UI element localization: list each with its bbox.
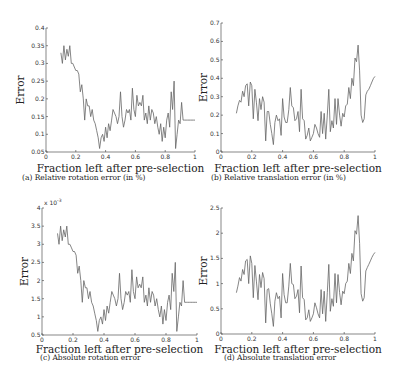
chart-c: 00.20.40.60.810.511.522.533.54x 10-3Frac…	[0, 193, 199, 387]
y-axis-label: Error	[197, 255, 209, 285]
y-tick-label: 0.1	[210, 130, 220, 137]
y-tick-label: 1.5	[210, 254, 220, 261]
x-tick-label: 0.2	[247, 153, 257, 160]
chart-a: 00.20.40.60.810.050.10.150.20.250.30.350…	[0, 0, 199, 193]
y-tick-label: 0.2	[210, 111, 220, 118]
y-tick-label: 4	[37, 204, 41, 211]
y-multiplier: x 10-3	[44, 198, 62, 206]
error-series-line	[58, 226, 198, 331]
x-tick-label: 0.6	[130, 336, 140, 343]
y-tick-label: 0.3	[210, 93, 220, 100]
error-series-line	[236, 216, 375, 327]
y-tick-label: 1	[37, 313, 41, 320]
x-tick-label: 0.2	[68, 336, 78, 343]
x-tick-label: 0	[40, 336, 44, 343]
panel-caption: (d) Absolute translation error	[224, 353, 337, 362]
x-tick-label: 0.8	[161, 336, 171, 343]
y-axis-label: Error	[18, 256, 30, 286]
y-tick-label: 3	[37, 240, 41, 247]
y-tick-label: 2.5	[210, 204, 220, 211]
error-series-line	[61, 46, 195, 149]
x-tick-label: 0	[44, 153, 48, 160]
x-tick-label: 0	[219, 153, 223, 160]
y-tick-label: 0.6	[210, 37, 220, 44]
chart-b: 00.20.40.60.8100.10.20.30.40.50.60.7Frac…	[199, 0, 398, 193]
y-tick-label: 0.4	[35, 24, 45, 31]
y-tick-label: 0.5	[210, 56, 220, 63]
y-tick-label: 0.35	[31, 42, 45, 49]
x-tick-label: 0.4	[278, 335, 288, 342]
x-tick-label: 0.8	[339, 153, 349, 160]
error-series-line	[236, 45, 375, 145]
x-tick-label: 0.4	[99, 336, 109, 343]
x-tick-label: 1	[373, 335, 377, 342]
y-tick-label: 0.5	[31, 331, 41, 338]
chart-d: 00.20.40.60.8100.511.522.5Fraction left …	[199, 193, 398, 387]
x-tick-label: 0.6	[309, 153, 319, 160]
y-tick-label: 0	[216, 330, 220, 337]
x-tick-label: 0.4	[101, 153, 111, 160]
y-tick-label: 0.5	[210, 305, 220, 312]
x-tick-label: 1	[373, 153, 377, 160]
chart-a-svg: 00.20.40.60.810.050.10.150.20.250.30.350…	[0, 0, 199, 193]
panel-caption: (b) Relative translation error (in %)	[211, 173, 346, 182]
y-tick-label: 3.5	[31, 222, 41, 229]
y-axis-label: Error	[197, 72, 209, 102]
y-tick-label: 0	[216, 148, 220, 155]
x-tick-label: 0.2	[71, 153, 81, 160]
y-tick-label: 2	[37, 277, 41, 284]
chart-d-svg: 00.20.40.60.8100.511.522.5Fraction left …	[199, 193, 398, 387]
panel-caption: (c) Absolute rotation error	[40, 353, 141, 362]
y-axis-label: Error	[14, 74, 26, 104]
y-tick-label: 0.3	[35, 59, 45, 66]
x-tick-label: 1	[193, 153, 197, 160]
y-tick-label: 0.7	[210, 19, 220, 26]
x-tick-label: 0.2	[247, 335, 257, 342]
chart-c-svg: 00.20.40.60.810.511.522.533.54x 10-3Frac…	[0, 193, 199, 387]
chart-b-svg: 00.20.40.60.8100.10.20.30.40.50.60.7Frac…	[199, 0, 398, 193]
y-tick-label: 0.05	[31, 148, 45, 155]
y-tick-label: 1.5	[31, 295, 41, 302]
y-tick-label: 2	[216, 229, 220, 236]
y-tick-label: 0.1	[35, 130, 45, 137]
y-tick-label: 0.15	[31, 113, 45, 120]
x-tick-label: 0	[219, 335, 223, 342]
y-tick-label: 2.5	[31, 258, 41, 265]
y-tick-label: 1	[216, 280, 220, 287]
x-tick-label: 0.8	[339, 335, 349, 342]
y-tick-label: 0.4	[210, 74, 220, 81]
y-tick-label: 0.25	[31, 77, 45, 84]
x-tick-label: 0.4	[278, 153, 288, 160]
y-tick-label: 0.2	[35, 95, 45, 102]
x-tick-label: 0.6	[309, 335, 319, 342]
panel-caption: (a) Relative rotation error (in %)	[22, 173, 146, 182]
x-tick-label: 0.8	[160, 153, 170, 160]
x-tick-label: 0.6	[131, 153, 141, 160]
